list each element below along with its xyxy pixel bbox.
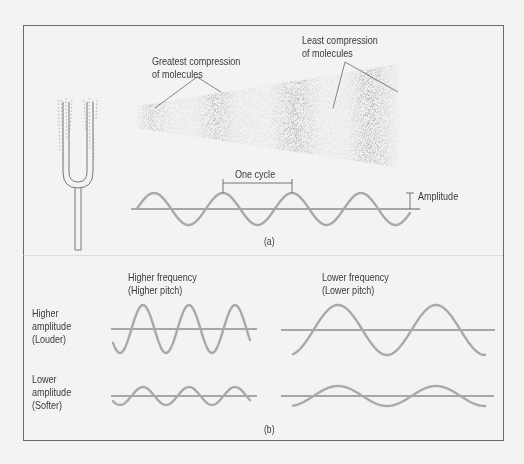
panel-a-caption: (a): [264, 235, 275, 248]
lower-frequency-line1: Lower frequency: [322, 271, 389, 284]
least-compression-line2: of molecules: [302, 47, 378, 60]
panel-a-wave: [131, 179, 420, 225]
higher-amplitude-line3: (Louder): [32, 333, 71, 346]
lower-amplitude-line3: (Softer): [32, 399, 71, 412]
greatest-compression-label: Greatest compression of molecules: [152, 55, 240, 81]
amplitude-marker: [406, 193, 414, 209]
sound-wave-figure: [0, 0, 524, 464]
least-compression-label: Least compression of molecules: [302, 34, 378, 60]
lower-amplitude-line2: amplitude: [32, 386, 71, 399]
column-header-lower-frequency: Lower frequency (Lower pitch): [322, 271, 389, 297]
row-header-lower-amplitude: Lower amplitude (Softer): [32, 373, 71, 412]
panel-b-caption: (b): [264, 423, 275, 436]
one-cycle-label: One cycle: [235, 168, 275, 181]
panel-b-waves: [111, 305, 495, 406]
greatest-compression-line1: Greatest compression: [152, 55, 240, 68]
lower-amplitude-line1: Lower: [32, 373, 71, 386]
tuning-fork-vibration-marks: [58, 98, 97, 165]
one-cycle-bracket: [223, 179, 292, 193]
higher-frequency-line1: Higher frequency: [128, 271, 197, 284]
higher-frequency-line2: (Higher pitch): [128, 284, 197, 297]
higher-amplitude-line1: Higher: [32, 307, 71, 320]
row-header-higher-amplitude: Higher amplitude (Louder): [32, 307, 71, 346]
higher-amplitude-line2: amplitude: [32, 320, 71, 333]
amplitude-label: Amplitude: [418, 190, 458, 203]
greatest-compression-line2: of molecules: [152, 68, 240, 81]
lower-frequency-line2: (Lower pitch): [322, 284, 389, 297]
column-header-higher-frequency: Higher frequency (Higher pitch): [128, 271, 197, 297]
tuning-fork-illustration: [63, 102, 93, 250]
least-compression-line1: Least compression: [302, 34, 378, 47]
